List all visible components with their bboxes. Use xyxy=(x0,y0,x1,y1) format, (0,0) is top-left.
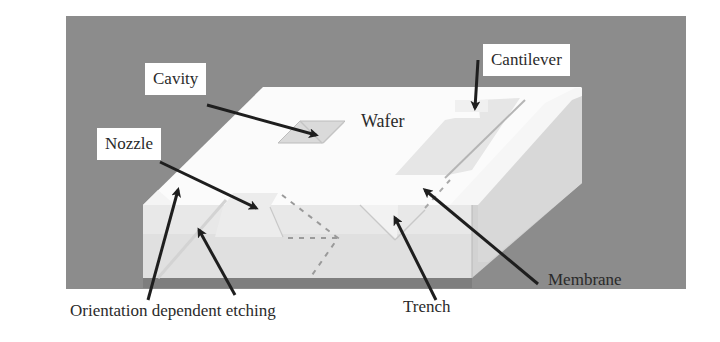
membrane-label: Membrane xyxy=(548,271,622,288)
cavity-label: Cavity xyxy=(145,63,206,95)
wafer-bottom-shadow xyxy=(143,278,472,288)
cantilever-label: Cantilever xyxy=(483,44,570,76)
front-upper-band xyxy=(143,205,472,234)
trench-label: Trench xyxy=(403,298,451,315)
wafer-diagram xyxy=(0,0,720,342)
nozzle-label: Nozzle xyxy=(97,128,161,160)
cantilever-beam xyxy=(455,100,488,112)
wafer-label: Wafer xyxy=(361,112,405,130)
orientation-dependent-etching-label: Orientation dependent etching xyxy=(70,302,276,319)
